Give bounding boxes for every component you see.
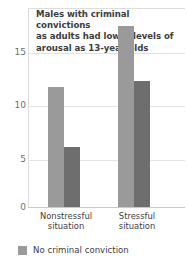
bar-stressful-no-conviction bbox=[118, 26, 134, 208]
legend: No criminal conviction bbox=[18, 245, 129, 255]
y-axis: 15 10 5 0 bbox=[0, 0, 26, 263]
y-tick-label-5: 5 bbox=[2, 155, 26, 164]
x-tick-label-stressful-line-2: situation bbox=[104, 221, 170, 231]
x-tick-label-nonstressful: Nonstressful situation bbox=[30, 211, 102, 232]
x-tick-label-nonstressful-line-1: Nonstressful bbox=[30, 211, 102, 221]
bar-nonstressful-no-conviction bbox=[48, 87, 64, 208]
legend-swatch-no-criminal-conviction bbox=[18, 246, 27, 255]
chart-figure: 15 10 5 0 Males with criminal conviction… bbox=[0, 0, 188, 263]
bars-layer bbox=[28, 8, 185, 208]
x-tick-label-nonstressful-line-2: situation bbox=[30, 221, 102, 231]
x-axis-baseline bbox=[28, 207, 185, 208]
legend-label-no-criminal-conviction: No criminal conviction bbox=[33, 245, 129, 255]
bar-stressful-conviction bbox=[134, 81, 150, 208]
y-tick-label-0: 0 bbox=[2, 203, 26, 212]
y-tick-label-15: 15 bbox=[2, 48, 26, 57]
x-tick-label-stressful: Stressful situation bbox=[104, 211, 170, 232]
x-tick-label-stressful-line-1: Stressful bbox=[104, 211, 170, 221]
y-tick-label-10: 10 bbox=[2, 101, 26, 110]
bar-nonstressful-conviction bbox=[64, 147, 80, 208]
